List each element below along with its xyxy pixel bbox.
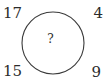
center-unknown-value: ? bbox=[0, 33, 104, 45]
corner-number-top-left: 17 bbox=[3, 6, 22, 21]
corner-number-top-right: 4 bbox=[93, 6, 103, 21]
corner-number-bottom-left: 15 bbox=[3, 64, 22, 79]
corner-number-bottom-right: 9 bbox=[91, 65, 101, 80]
circle-number-puzzle-figure: 17 4 15 9 ? bbox=[0, 0, 107, 83]
